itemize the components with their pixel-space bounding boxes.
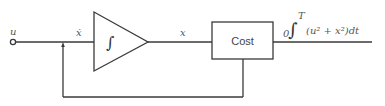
feedback-arrow-icon	[61, 42, 65, 47]
state-label: x	[180, 27, 186, 38]
input-label: u	[10, 26, 16, 37]
input-terminal	[10, 39, 15, 44]
integrand-expression: (u² + x²)dt	[306, 25, 360, 36]
derivative-label: ẋ	[76, 27, 82, 38]
integral-upper-limit: T	[298, 10, 306, 21]
cost-block-label: Cost	[231, 35, 254, 47]
output-integral-symbol: ∫	[288, 19, 298, 40]
integrator-block	[94, 12, 148, 71]
block-diagram: u ẋ ∫ x Cost 0 ∫ T (u² + x²)dt	[0, 0, 385, 106]
integrator-symbol: ∫	[106, 33, 114, 52]
